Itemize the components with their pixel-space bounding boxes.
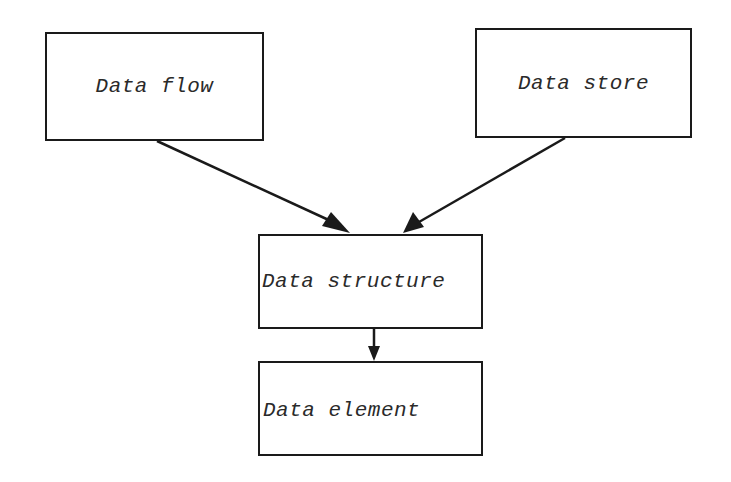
node-label: Data structure — [262, 270, 445, 293]
node-label: Data element — [263, 399, 420, 422]
node-label: Data flow — [96, 75, 214, 98]
arrowhead-icon — [322, 212, 350, 233]
arrowhead-icon — [403, 212, 424, 233]
arrow-structure-to-element — [368, 329, 380, 361]
node-data-element: Data element — [258, 361, 483, 456]
node-data-store: Data store — [475, 28, 692, 138]
arrow-store-to-structure — [403, 138, 565, 233]
node-data-flow: Data flow — [45, 32, 264, 141]
arrow-flow-to-structure — [157, 141, 350, 233]
node-data-structure: Data structure — [258, 234, 483, 329]
arrowhead-icon — [368, 346, 380, 361]
diagram-canvas: Data flow Data store Data structure Data… — [0, 0, 731, 482]
node-label: Data store — [518, 72, 649, 95]
